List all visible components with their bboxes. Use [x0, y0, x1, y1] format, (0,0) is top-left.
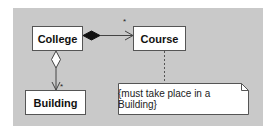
note-text: {must take place in a Building}	[118, 83, 249, 115]
class-building[interactable]: Building	[25, 90, 86, 115]
class-college-label: College	[38, 33, 78, 45]
constraint-note[interactable]: {must take place in a Building}	[118, 83, 249, 115]
composition-association	[83, 31, 133, 40]
class-college[interactable]: College	[32, 26, 83, 51]
class-course[interactable]: Course	[133, 26, 186, 51]
course-multiplicity: *	[123, 18, 126, 26]
class-building-label: Building	[34, 97, 78, 109]
class-course-label: Course	[141, 33, 179, 45]
hollow-diamond-icon	[52, 51, 61, 68]
filled-diamond-icon	[83, 31, 100, 40]
